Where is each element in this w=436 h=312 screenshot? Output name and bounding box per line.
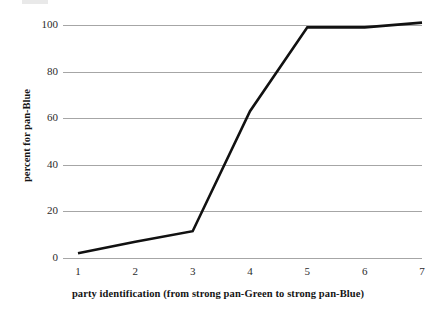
series-line-percent-for-pan-blue	[78, 23, 422, 254]
y-tick-label-80: 80	[24, 66, 58, 77]
x-tick-label-1: 1	[66, 265, 90, 277]
x-tick-label-5: 5	[295, 265, 319, 277]
y-tick-label-40: 40	[24, 159, 58, 170]
y-axis-tick-labels: 020406080100	[20, 20, 58, 264]
x-tick-label-2: 2	[123, 265, 147, 277]
x-tick-label-7: 7	[410, 265, 434, 277]
y-tick-label-60: 60	[24, 112, 58, 123]
x-tick-label-4: 4	[238, 265, 262, 277]
x-axis-title: party identification (from strong pan-Gr…	[0, 288, 436, 299]
y-tick-label-100: 100	[24, 19, 58, 30]
y-tick-label-0: 0	[24, 252, 58, 263]
plot-area	[63, 20, 422, 264]
line-chart: percent for pan-Blue 020406080100 123456…	[0, 0, 436, 312]
series-line-layer	[63, 20, 422, 264]
x-tick-label-3: 3	[181, 265, 205, 277]
x-tick-label-6: 6	[353, 265, 377, 277]
x-axis-tick-labels: 1234567	[63, 265, 433, 281]
y-tick-label-20: 20	[24, 205, 58, 216]
